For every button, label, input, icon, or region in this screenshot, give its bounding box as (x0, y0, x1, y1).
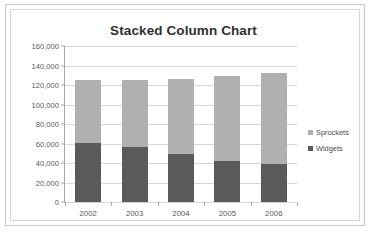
column-segment-sprockets[interactable] (214, 76, 240, 161)
column-segment-sprockets[interactable] (122, 80, 148, 147)
chart-canvas: Stacked Column Chart 160,000140,000120,0… (11, 10, 361, 222)
category-axis-tick-label: 2006 (265, 209, 282, 218)
gridline (65, 46, 297, 47)
category-axis-tick-mark (251, 202, 252, 206)
category-axis-tick-mark (158, 202, 159, 206)
column-segment-widgets[interactable] (122, 147, 148, 202)
value-axis-tick-label: 140,000 (32, 61, 59, 70)
category-axis-tick-mark (204, 202, 205, 206)
column-segment-sprockets[interactable] (168, 79, 194, 154)
value-axis-tick-mark (61, 143, 65, 144)
chart-inner-frame: Stacked Column Chart 160,000140,000120,0… (10, 9, 360, 221)
value-axis-tick-mark (61, 85, 65, 86)
value-axis-tick-label: 0 (55, 198, 59, 207)
value-axis-tick-label: 60,000 (36, 139, 59, 148)
chart-title: Stacked Column Chart (71, 23, 296, 38)
category-axis-tick-mark (297, 202, 298, 206)
column-segment-widgets[interactable] (214, 161, 240, 202)
column-2003[interactable] (122, 80, 148, 202)
category-axis-tick-label: 2003 (126, 209, 143, 218)
value-axis-tick-label: 120,000 (32, 81, 59, 90)
column-2004[interactable] (168, 79, 194, 202)
category-axis-tick-mark (111, 202, 112, 206)
legend-label: Sprockets (316, 128, 349, 137)
value-axis-tick-mark (61, 124, 65, 125)
category-axis-tick-mark (65, 202, 66, 206)
legend-swatch-icon (308, 146, 313, 151)
column-2006[interactable] (261, 73, 287, 202)
value-axis-tick-label: 100,000 (32, 100, 59, 109)
column-segment-widgets[interactable] (75, 143, 101, 202)
chart-outer-frame: Stacked Column Chart 160,000140,000120,0… (5, 4, 365, 226)
legend-item-widgets[interactable]: Widgets (308, 144, 360, 153)
value-axis-tick-mark (61, 182, 65, 183)
category-axis-tick-label: 2004 (172, 209, 189, 218)
value-axis-tick-label: 160,000 (32, 42, 59, 51)
value-axis-tick-mark (61, 65, 65, 66)
legend-item-sprockets[interactable]: Sprockets (308, 128, 360, 137)
value-axis-tick-mark (61, 104, 65, 105)
gridline (65, 202, 297, 203)
gridline (65, 66, 297, 67)
category-axis-tick-label: 2005 (219, 209, 236, 218)
value-axis-tick-mark (61, 163, 65, 164)
column-segment-sprockets[interactable] (75, 80, 101, 143)
value-axis-tick-mark (61, 46, 65, 47)
column-segment-sprockets[interactable] (261, 73, 287, 164)
plot-area: 160,000140,000120,000100,00080,00060,000… (65, 46, 297, 202)
legend-label: Widgets (316, 144, 343, 153)
value-axis-tick-label: 40,000 (36, 159, 59, 168)
column-segment-widgets[interactable] (261, 164, 287, 202)
column-segment-widgets[interactable] (168, 154, 194, 202)
column-2005[interactable] (214, 76, 240, 202)
category-axis-tick-label: 2002 (80, 209, 97, 218)
column-2002[interactable] (75, 80, 101, 202)
value-axis-tick-label: 80,000 (36, 120, 59, 129)
value-axis-tick-label: 20,000 (36, 178, 59, 187)
legend-swatch-icon (308, 130, 313, 135)
chart-legend: SprocketsWidgets (308, 128, 360, 160)
